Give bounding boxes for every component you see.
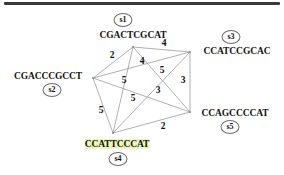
edge-weight-s1-s2: 2: [110, 50, 115, 60]
graph-vertex: [132, 46, 134, 48]
node-badge-s4: s4: [109, 152, 128, 166]
edge-weight-s2-s3: 5: [122, 75, 127, 85]
sequence-label-s3: CCATCCGCAC: [204, 46, 271, 56]
node-badge-s1: s1: [114, 13, 133, 27]
sequence-label-s4: CCATTCCCAT: [85, 139, 150, 149]
graph-vertex: [189, 111, 191, 113]
edge-weight-s1-s3: 4: [162, 38, 167, 48]
sequence-label-s2: CGACCCGCCT: [14, 71, 82, 81]
edge-weight-s1-s4: 4: [140, 56, 145, 66]
figure-canvas: CGACTCGCATCGACCCGCCTCCATCCGCACCCATTCCCAT…: [0, 0, 284, 175]
node-badge-s5: s5: [221, 120, 240, 134]
edge-weight-s3-s5: 3: [181, 75, 186, 85]
graph-edge: [113, 52, 190, 133]
sequence-label-s1: CGACTCGCAT: [100, 30, 167, 40]
edge-weight-s1-s5: 5: [160, 65, 165, 75]
edge-weight-s3-s4: 3: [156, 85, 161, 95]
edge-weight-s2-s4: 5: [99, 105, 104, 115]
graph-edge: [113, 112, 190, 133]
edge-weight-s4-s5: 2: [161, 121, 166, 131]
node-badge-s3: s3: [222, 30, 241, 44]
graph-vertex: [112, 132, 114, 134]
sequence-label-s5: CCAGCCCCAT: [202, 108, 269, 118]
node-badge-s2: s2: [43, 83, 62, 97]
graph-vertex: [92, 77, 94, 79]
graph-vertex: [189, 51, 191, 53]
edge-weight-s2-s5: 5: [131, 93, 136, 103]
